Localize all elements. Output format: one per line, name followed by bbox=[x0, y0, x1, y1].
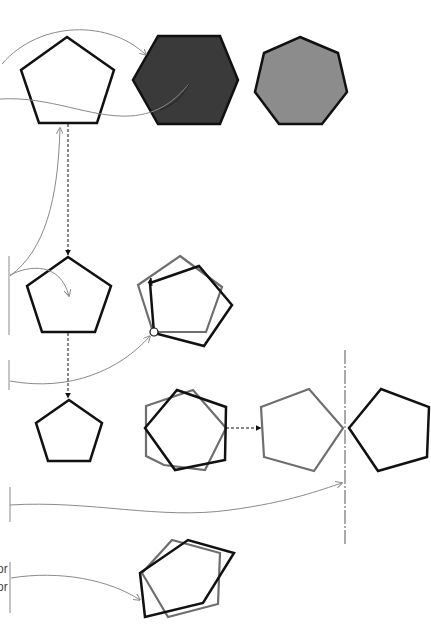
heptagon-gray-filled bbox=[255, 37, 347, 124]
connector-curve-mirror bbox=[10, 483, 342, 513]
pentagon-skew-gray bbox=[142, 540, 220, 617]
section-scale-reflect bbox=[10, 350, 429, 545]
pentagon-small bbox=[36, 400, 102, 461]
section-rotate bbox=[9, 256, 232, 390]
pentagon-gray-pre-reflect bbox=[261, 389, 343, 471]
clipped-label-2: or bbox=[0, 581, 8, 593]
pentagon-dark-reflected bbox=[349, 389, 429, 471]
connector-curve-pivot bbox=[10, 336, 150, 384]
pivot-point bbox=[150, 328, 158, 336]
pentagon-rotated-dark bbox=[150, 266, 232, 346]
hexagon-dark-filled bbox=[133, 36, 238, 124]
pentagon-outline bbox=[21, 37, 114, 123]
connector-curve-up bbox=[10, 128, 60, 276]
diagram-canvas bbox=[0, 0, 431, 627]
section-fill bbox=[0, 30, 347, 124]
clipped-label-1: or bbox=[0, 563, 8, 575]
connector-curve-skew bbox=[11, 575, 140, 600]
section-skew bbox=[10, 540, 234, 617]
